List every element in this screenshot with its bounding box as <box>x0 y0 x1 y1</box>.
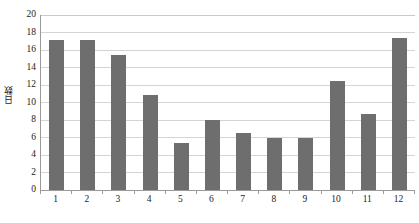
x-axis-tick-label: 12 <box>394 195 404 205</box>
x-axis-tick-label: 9 <box>303 195 308 205</box>
x-axis-tick <box>71 190 72 194</box>
bar <box>49 40 64 190</box>
y-axis-tick-labels: 02468101214161820 <box>14 15 38 190</box>
x-axis-tick <box>383 190 384 194</box>
bars-layer <box>41 15 415 190</box>
bar <box>111 55 126 190</box>
y-axis-tick-label: 18 <box>27 28 37 38</box>
x-axis-tick <box>352 190 353 194</box>
x-axis-tick-label: 2 <box>84 195 89 205</box>
bar <box>236 133 251 190</box>
x-axis-tick <box>165 190 166 194</box>
bar <box>143 95 158 190</box>
bar <box>174 143 189 190</box>
x-axis-tick-label: 1 <box>53 195 58 205</box>
x-axis-tick-labels: 123456789101112 <box>40 195 414 213</box>
x-axis-tick <box>196 190 197 194</box>
y-axis-tick-label: 6 <box>31 133 36 143</box>
bar <box>267 138 282 191</box>
x-axis-tick <box>289 190 290 194</box>
bar <box>330 81 345 190</box>
y-axis-tick-label: 12 <box>27 80 37 90</box>
x-axis-tick-label: 7 <box>240 195 245 205</box>
y-axis-tick-label: 4 <box>31 150 36 160</box>
x-axis-tick-label: 8 <box>271 195 276 205</box>
bar <box>392 38 407 190</box>
bar <box>298 138 313 191</box>
y-axis-title-label: 日数 <box>4 86 13 104</box>
y-axis-tick-label: 2 <box>31 168 36 178</box>
x-axis-tick-label: 6 <box>209 195 214 205</box>
x-axis-tick <box>414 190 415 194</box>
x-axis-tick <box>102 190 103 194</box>
bar <box>80 40 95 190</box>
x-axis-tick <box>40 190 41 194</box>
y-axis-tick-label: 8 <box>31 115 36 125</box>
y-axis-tick-label: 20 <box>27 10 37 20</box>
bar <box>205 120 220 190</box>
x-axis-tick <box>321 190 322 194</box>
x-axis-tick-label: 11 <box>363 195 372 205</box>
x-axis-tick <box>258 190 259 194</box>
bar-chart: 日数 02468101214161820 123456789101112 月 <box>0 0 419 223</box>
y-axis-tick-label: 14 <box>27 63 37 73</box>
x-axis-tick-label: 5 <box>178 195 183 205</box>
y-axis-tick-label: 16 <box>27 45 37 55</box>
x-axis-tick <box>227 190 228 194</box>
y-axis-tick-label: 0 <box>31 185 36 195</box>
plot-area <box>40 15 415 191</box>
bar <box>361 114 376 190</box>
x-axis-tick-label: 4 <box>147 195 152 205</box>
y-axis-tick-label: 10 <box>27 98 37 108</box>
x-axis-tick <box>134 190 135 194</box>
x-axis-tick-label: 10 <box>331 195 341 205</box>
x-axis-tick-label: 3 <box>116 195 121 205</box>
